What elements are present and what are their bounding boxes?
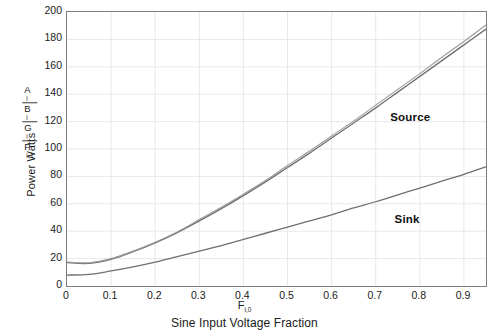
x-axis-title: Sine Input Voltage Fraction [0,316,489,330]
y-axis-ticks: 020406080100120140160180200 [34,0,62,300]
y-tick-label: 160 [36,59,62,71]
curve-source-second-trace [67,25,486,263]
y-tick-label: 100 [36,141,62,153]
chart-figure: Power Watts Ai Bi Gi Pi,1 02040608010012… [0,0,489,334]
plot-area [66,11,487,287]
y-tick-label: 20 [36,251,62,263]
grid-lines [67,12,486,286]
y-tick-label: 180 [36,31,62,43]
curve-source [67,29,486,263]
y-tick-label: 140 [36,86,62,98]
y-tick-label: 40 [36,223,62,235]
x-axis-symbol-subscript: i,0 [244,306,251,313]
x-axis-symbol: Fi,0 [0,299,489,313]
y-tick-label: 80 [36,168,62,180]
series-annotation-sink: Sink [395,213,420,225]
y-tick-label: 120 [36,114,62,126]
series-annotation-source: Source [390,111,430,123]
y-tick-label: 200 [36,4,62,16]
plot-canvas [67,12,486,286]
y-tick-label: 60 [36,196,62,208]
data-curves [67,25,486,275]
